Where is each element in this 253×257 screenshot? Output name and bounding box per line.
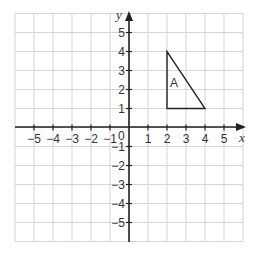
x-tick-label: −2 (84, 132, 98, 146)
y-axis-arrow-icon (125, 11, 133, 21)
y-tick-label: 2 (118, 83, 125, 97)
y-tick-label: 1 (118, 102, 125, 116)
x-tick-label: −5 (27, 132, 41, 146)
y-tick-label: 3 (118, 64, 125, 78)
triangle-label: A (170, 76, 178, 90)
x-tick-label: 3 (183, 132, 190, 146)
x-axis-label: x (238, 130, 245, 145)
y-tick-label: 4 (118, 45, 125, 59)
x-tick-label: −3 (65, 132, 79, 146)
coordinate-grid: −5−4−3−2−11234554321−1−2−3−4−5 x y 0 A (0, 0, 253, 257)
y-tick-label: 5 (118, 26, 125, 40)
x-tick-label: 2 (164, 132, 171, 146)
y-tick-label: −5 (111, 216, 125, 230)
y-tick-label: −2 (111, 159, 125, 173)
origin-label: 0 (118, 129, 125, 143)
x-tick-label: 4 (202, 132, 209, 146)
x-tick-label: 5 (221, 132, 228, 146)
y-axis-label: y (114, 7, 122, 22)
y-tick-label: −3 (111, 178, 125, 192)
x-tick-label: 1 (145, 132, 152, 146)
x-tick-label: −4 (46, 132, 60, 146)
y-tick-label: −4 (111, 197, 125, 211)
